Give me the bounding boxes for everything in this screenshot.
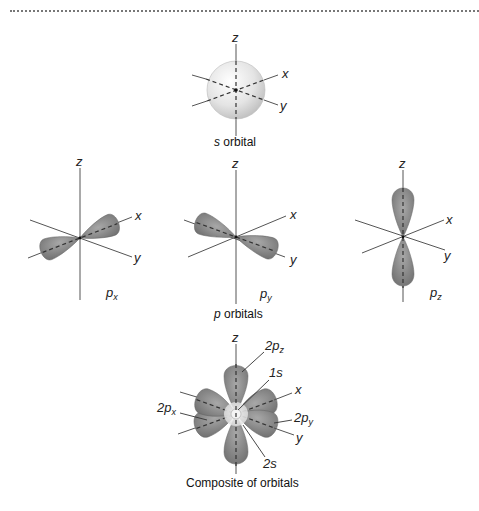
y-axis-front bbox=[264, 100, 278, 105]
x-axis-label: x bbox=[289, 207, 297, 222]
nucleus-dot bbox=[79, 237, 82, 240]
pz-orbital-panel: z x y pz bbox=[355, 156, 453, 302]
y-axis-label: y bbox=[443, 248, 452, 263]
nucleus-dot bbox=[234, 88, 238, 92]
x-axis-label: x bbox=[445, 212, 453, 227]
y-axis-front bbox=[274, 428, 294, 435]
px-lobe-negative bbox=[37, 227, 84, 262]
z-axis-label: z bbox=[231, 30, 239, 45]
py-orbital-panel: z x y py p orbitals bbox=[184, 156, 298, 321]
px-orbital-panel: z x y px bbox=[28, 154, 142, 302]
x-axis-front bbox=[274, 393, 292, 400]
orbital-diagram: z x y s orbital z x y px z x y py bbox=[0, 0, 479, 511]
y-axis-label: y bbox=[289, 252, 298, 267]
z-axis-label: z bbox=[75, 154, 83, 169]
nucleus-dot bbox=[235, 236, 238, 239]
s-orbital-caption: s orbital bbox=[214, 135, 256, 149]
y-axis-label: y bbox=[133, 250, 142, 265]
x-axis-label: x bbox=[281, 66, 289, 81]
2pz-label: 2pz bbox=[264, 338, 284, 355]
z-axis-label: z bbox=[231, 156, 239, 171]
1s-label: 1s bbox=[269, 365, 283, 380]
py-lobe-positive bbox=[233, 226, 281, 262]
composite-caption: Composite of orbitals bbox=[186, 476, 299, 490]
2py-label: 2py bbox=[293, 410, 313, 427]
py-lobe-negative bbox=[192, 211, 240, 247]
2px-label: 2px bbox=[156, 400, 176, 417]
px-label: px bbox=[105, 285, 118, 302]
2pz-leader bbox=[242, 352, 264, 372]
p-orbitals-caption: p orbitals bbox=[213, 307, 263, 321]
pz-label: pz bbox=[429, 285, 442, 302]
2s-label: 2s bbox=[262, 456, 277, 471]
x-axis-back bbox=[178, 427, 198, 434]
y-axis-back bbox=[192, 75, 206, 79]
px-lobe-positive bbox=[76, 212, 123, 247]
z-axis-label: z bbox=[398, 156, 406, 171]
y-axis-label: y bbox=[295, 430, 304, 445]
x-axis-label: x bbox=[134, 208, 142, 223]
nucleus-dot bbox=[402, 236, 405, 239]
s-orbital-panel: z x y s orbital bbox=[192, 30, 289, 149]
y-axis-label: y bbox=[279, 98, 288, 113]
x-axis-label: x bbox=[294, 382, 302, 397]
x-axis-back bbox=[192, 101, 207, 106]
py-label: py bbox=[259, 286, 272, 303]
z-axis-label: z bbox=[231, 330, 239, 345]
composite-orbital-panel: z x y 2pz 1s 2py 2px 2s Composite of orb… bbox=[156, 330, 313, 490]
x-axis-front bbox=[264, 75, 278, 80]
